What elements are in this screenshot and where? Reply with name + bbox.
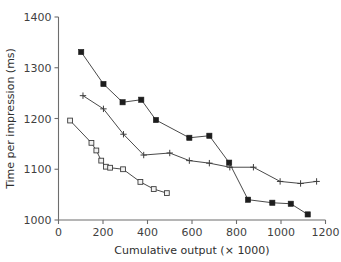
x-tick-label: 600 <box>182 226 203 239</box>
data-point-marker <box>108 165 113 170</box>
data-point-marker <box>99 158 104 163</box>
y-tick-label: 1300 <box>24 62 52 75</box>
y-tick-label: 1100 <box>24 163 52 176</box>
data-point-marker <box>207 133 212 138</box>
line-chart: 1000110012001300140002004006008001000120… <box>0 0 341 262</box>
series-layer <box>68 49 320 217</box>
y-tick-label: 1000 <box>24 214 52 227</box>
x-tick-label: 800 <box>226 226 247 239</box>
data-point-marker <box>305 212 310 217</box>
x-tick-label: 0 <box>55 226 62 239</box>
chart-figure: 1000110012001300140002004006008001000120… <box>0 0 341 262</box>
x-tick-label: 200 <box>93 226 114 239</box>
y-tick-label: 1400 <box>24 11 52 24</box>
data-point-marker <box>288 201 293 206</box>
data-point-marker <box>68 118 73 123</box>
series-line-filled-square-series <box>81 52 308 214</box>
data-point-marker <box>94 148 99 153</box>
data-point-marker <box>227 160 232 165</box>
series-filled-square-series <box>79 49 311 217</box>
x-tick-label: 1000 <box>267 226 295 239</box>
data-point-marker <box>138 180 143 185</box>
data-point-marker <box>120 100 125 105</box>
axes <box>55 17 326 224</box>
y-tick-label: 1200 <box>24 113 52 126</box>
data-point-marker <box>121 167 126 172</box>
data-point-marker <box>270 200 275 205</box>
series-plus-series <box>80 92 320 186</box>
data-point-marker <box>101 81 106 86</box>
y-axis-title: Time per impression (ms) <box>4 48 17 190</box>
x-tick-label: 400 <box>137 226 158 239</box>
data-point-marker <box>139 97 144 102</box>
data-point-marker <box>153 117 158 122</box>
series-open-square-series <box>68 118 170 195</box>
x-tick-label: 1200 <box>312 226 340 239</box>
data-point-marker <box>79 49 84 54</box>
data-point-marker <box>164 191 169 196</box>
x-axis-title: Cumulative output (× 1000) <box>114 244 269 257</box>
data-point-marker <box>187 135 192 140</box>
series-line-open-square-series <box>70 121 167 194</box>
data-point-marker <box>89 140 94 145</box>
series-line-plus-series <box>83 96 317 184</box>
data-point-marker <box>151 187 156 192</box>
data-point-marker <box>245 197 250 202</box>
